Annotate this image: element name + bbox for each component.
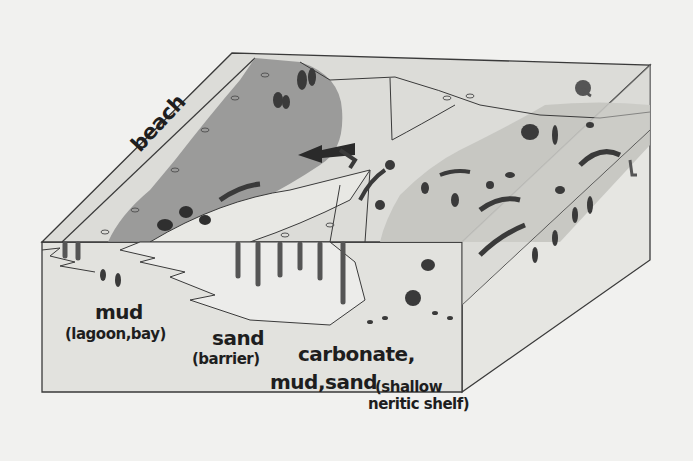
label-shelf-line1: (shallow xyxy=(375,378,442,396)
label-mud: mud xyxy=(95,300,143,324)
label-mud-sand: mud,sand xyxy=(270,370,377,394)
label-sand-environment: (barrier) xyxy=(192,350,260,368)
ammonite-icon xyxy=(575,80,591,96)
label-sand: sand xyxy=(212,326,264,350)
label-shelf-line2: neritic shelf) xyxy=(368,395,469,413)
label-carbonate: carbonate, xyxy=(298,342,415,366)
label-mud-environment: (lagoon,bay) xyxy=(65,325,166,343)
